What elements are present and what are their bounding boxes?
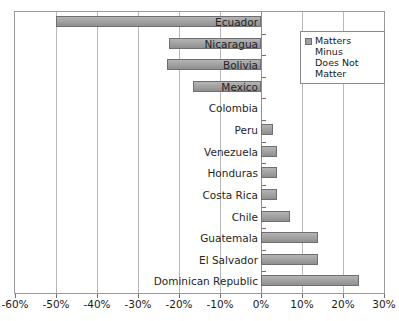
bar-row: Dominican Republic [15,271,384,293]
category-label-honduras: Honduras [207,166,261,181]
bar-chart: EcuadorNicaraguaBoliviaMexicoColombiaPer… [0,0,399,321]
legend-swatch-icon [305,38,312,45]
chart-legend: Matters Minus Does Not Matter [300,31,385,84]
bar-peru [261,124,273,135]
bar-row: Peru [15,120,384,142]
category-label-peru: Peru [235,123,261,138]
category-label-chile: Chile [232,210,261,225]
category-label-ecuador: Ecuador [215,15,261,30]
category-label-venezuela: Venezuela [204,145,261,160]
bar-costa-rica [261,189,277,200]
bar-row: Costa Rica [15,185,384,207]
category-label-costa-rica: Costa Rica [202,188,261,203]
bar-honduras [261,167,277,178]
category-label-dominican-republic: Dominican Republic [154,274,261,289]
legend-item: Matters Minus Does Not Matter [305,35,381,79]
bar-dominican-republic [261,275,359,286]
bar-row: El Salvador [15,250,384,272]
bar-guatemala [261,232,318,243]
bar-el-salvador [261,254,318,265]
category-label-bolivia: Bolivia [223,58,261,73]
bar-row: Honduras [15,163,384,185]
category-label-mexico: Mexico [221,80,261,95]
bar-row: Colombia [15,98,384,120]
bar-row: Guatemala [15,228,384,250]
bar-row: Venezuela [15,142,384,164]
legend-item-label: Matters Minus Does Not Matter [315,35,381,79]
category-label-colombia: Colombia [209,101,261,116]
bar-venezuela [261,146,277,157]
bar-chile [261,211,290,222]
category-label-guatemala: Guatemala [200,231,261,246]
bar-row: Chile [15,207,384,229]
category-label-nicaragua: Nicaragua [205,37,261,52]
category-label-el-salvador: El Salvador [199,253,261,268]
x-axis-tick-label: 30% [359,298,399,310]
